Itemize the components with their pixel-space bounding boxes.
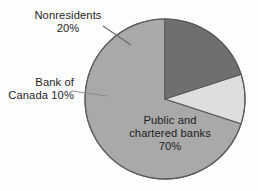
pie-label-nonresidents: Nonresidents 20%: [22, 9, 114, 35]
pie-label-nonresidents-line1: Nonresidents: [22, 9, 114, 22]
pie-label-public-and-chartered-banks-line1: Public and: [124, 114, 216, 127]
pie-chart: Nonresidents 20% Bank of Canada 10% Publ…: [0, 0, 258, 191]
pie-label-nonresidents-value: 20%: [22, 22, 114, 35]
pie-label-public-and-chartered-banks-line2: chartered banks: [124, 127, 216, 140]
pie-label-bank-of-canada: Bank of Canada 10%: [0, 76, 74, 102]
pie-label-public-and-chartered-banks: Public and chartered banks 70%: [124, 114, 216, 154]
pie-label-bank-of-canada-line2: Canada 10%: [0, 89, 74, 102]
pie-label-bank-of-canada-line1: Bank of: [0, 76, 74, 89]
pie-label-public-and-chartered-banks-value: 70%: [124, 140, 216, 153]
